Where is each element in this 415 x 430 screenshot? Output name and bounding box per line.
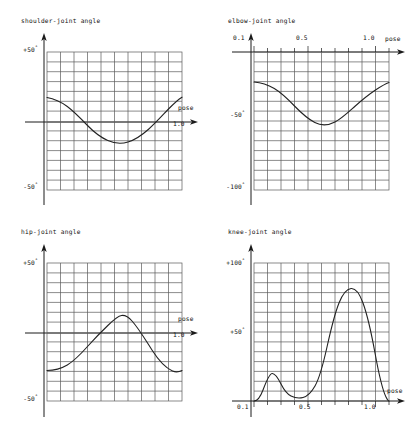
panel-shoulder: shoulder-joint angle +50° -50° pose 1.0 (0, 0, 207, 215)
y-tick-bottom-shoulder: -50° (2, 183, 38, 190)
panel-title-shoulder: shoulder-joint angle (21, 17, 101, 24)
y-tick-mid-elbow-value: -50 (230, 111, 242, 118)
panel-hip: hip-joint angle +50° -50° pose 1.0 (0, 215, 207, 430)
panel-title-elbow: elbow-joint angle (228, 17, 296, 24)
degree-symbol: ° (35, 258, 38, 263)
x-tick-label-elbow-2: 1.0 (363, 34, 375, 41)
x-tick-label-knee-0: 0.1 (237, 403, 249, 410)
joint-angle-figure: shoulder-joint angle +50° -50° pose 1.0 … (0, 0, 415, 430)
degree-symbol: ° (242, 327, 245, 332)
grid-elbow (254, 52, 389, 190)
degree-symbol: ° (242, 110, 245, 115)
degree-symbol: ° (35, 182, 38, 187)
grid-hip (47, 263, 182, 401)
y-tick-top-shoulder: +50° (2, 46, 38, 53)
y-tick-bottom-hip: -50° (2, 395, 38, 402)
degree-symbol: ° (35, 45, 38, 50)
x-tick-label-knee-2: 1.0 (364, 403, 376, 410)
y-tick-top-hip-value: +50 (23, 259, 35, 266)
x-end-label-hip: 1.0 (173, 331, 185, 338)
y-tick-top-knee-value: +100 (226, 259, 242, 266)
x-end-label-shoulder: 1.0 (173, 120, 185, 127)
x-axis-label-shoulder: pose (178, 104, 194, 111)
plot-knee (207, 215, 415, 430)
x-tick-label-elbow-0: 0.1 (233, 34, 245, 41)
grid-shoulder (47, 52, 182, 190)
x-axis-label-hip: pose (178, 315, 194, 322)
panel-title-knee: knee-joint angle (228, 228, 292, 235)
degree-symbol: ° (242, 258, 245, 263)
x-tick-label-knee-1: 0.5 (299, 403, 311, 410)
panel-knee: knee-joint angle +100° +50° 0.1 0.5 1.0 … (207, 215, 415, 430)
x-ticks-elbow (254, 46, 389, 52)
panel-elbow: elbow-joint angle 0.1 0.5 1.0 pose -50° … (207, 0, 415, 215)
x-axis-label-knee: pose (387, 387, 403, 394)
y-tick-bottom-hip-value: -50 (23, 395, 35, 402)
y-tick-mid-knee: +50° (207, 328, 245, 335)
y-tick-bottom-elbow-value: -100 (226, 183, 242, 190)
y-tick-mid-elbow: -50° (207, 111, 245, 118)
y-tick-top-shoulder-value: +50 (23, 46, 35, 53)
y-tick-top-hip: +50° (2, 259, 38, 266)
y-tick-bottom-shoulder-value: -50 (23, 183, 35, 190)
x-axis-label-elbow: pose (385, 35, 401, 42)
grid-knee (254, 263, 389, 401)
degree-symbol: ° (35, 394, 38, 399)
y-tick-top-knee: +100° (207, 259, 245, 266)
x-tick-label-elbow-1: 0.5 (296, 34, 308, 41)
degree-symbol: ° (242, 182, 245, 187)
panel-title-hip: hip-joint angle (21, 228, 81, 235)
y-tick-mid-knee-value: +50 (230, 328, 242, 335)
y-tick-bottom-elbow: -100° (207, 183, 245, 190)
